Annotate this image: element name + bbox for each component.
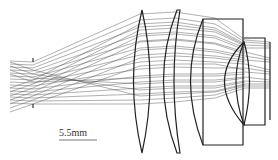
lens-elements [134, 10, 271, 153]
lens-ray-diagram [0, 0, 278, 160]
scale-bar-label: 5.5mm [59, 127, 87, 138]
lens-2 [164, 10, 181, 153]
ray-bundle [10, 12, 270, 112]
